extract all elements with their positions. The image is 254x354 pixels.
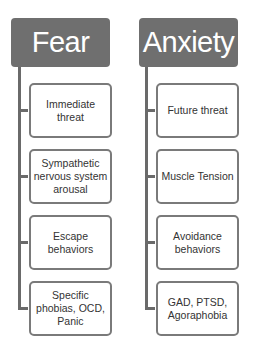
anxiety-branch-4 [145,307,155,310]
fear-connector-line [18,67,21,310]
fear-item-immediate-threat: Immediate threat [29,83,112,138]
anxiety-item-label: Future threat [165,104,229,117]
fear-item-sympathetic-arousal: Sympathetic nervous system arousal [29,149,112,204]
anxiety-branch-1 [145,109,155,112]
fear-item-escape-behaviors: Escape behaviors [29,215,112,270]
fear-branch-3 [18,241,28,244]
fear-item-label: Sympathetic nervous system arousal [32,157,110,196]
fear-header: Fear [11,18,110,67]
anxiety-item-label: Muscle Tension [159,170,235,183]
anxiety-item-label: GAD, PTSD, Agoraphobia [166,296,230,322]
anxiety-item-avoidance-behaviors: Avoidance behaviors [156,215,239,270]
fear-item-label: Escape behaviors [46,230,96,256]
anxiety-item-future-threat: Future threat [156,83,239,138]
anxiety-item-label: Avoidance behaviors [171,230,224,256]
anxiety-header: Anxiety [139,18,238,67]
anxiety-branch-2 [145,175,155,178]
fear-branch-4 [18,307,28,310]
anxiety-branch-3 [145,241,155,244]
anxiety-item-muscle-tension: Muscle Tension [156,149,239,204]
fear-item-label: Specific phobias, OCD, Panic [34,289,107,328]
fear-item-disorders: Specific phobias, OCD, Panic [29,281,112,336]
fear-branch-1 [18,109,28,112]
anxiety-item-disorders: GAD, PTSD, Agoraphobia [156,281,239,336]
fear-branch-2 [18,175,28,178]
fear-item-label: Immediate threat [44,98,97,124]
anxiety-connector-line [145,67,148,310]
